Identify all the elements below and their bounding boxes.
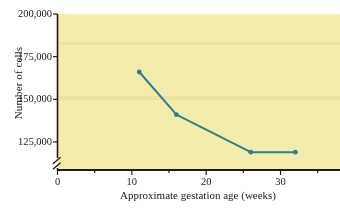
chart-figure: Number of cells Approximate gestation ag… (0, 0, 340, 208)
y-tick-label: 175,000 (0, 52, 52, 62)
x-axis-tick-labels: 0102030 (0, 168, 340, 184)
y-tick-label: 150,000 (0, 94, 52, 104)
x-tick-label: 0 (43, 177, 73, 187)
y-tick-label: 125,000 (0, 137, 52, 147)
x-tick-label: 20 (191, 177, 221, 187)
x-axis-title: Approximate gestation age (weeks) (56, 189, 340, 201)
y-tick-label: 200,000 (0, 9, 52, 19)
x-tick-label: 30 (266, 177, 296, 187)
x-tick-label: 10 (117, 177, 147, 187)
